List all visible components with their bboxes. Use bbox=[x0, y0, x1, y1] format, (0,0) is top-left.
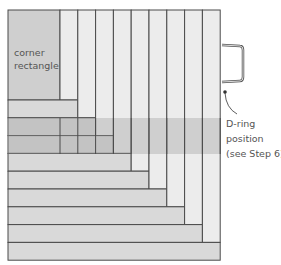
corner-label-line1: corner bbox=[14, 46, 45, 60]
horizontal-strip bbox=[8, 207, 185, 225]
vertical-strip bbox=[78, 10, 96, 118]
horizontal-strip bbox=[8, 100, 78, 118]
corner-label-line2: rectangle bbox=[14, 59, 59, 73]
d-ring-band bbox=[8, 118, 220, 154]
horizontal-strip bbox=[8, 225, 202, 243]
vertical-strip bbox=[185, 10, 203, 225]
horizontal-strip bbox=[8, 171, 149, 189]
d-ring-label-line1: D-ring bbox=[226, 117, 255, 131]
vertical-strip bbox=[149, 10, 167, 189]
d-ring-label-line2: position bbox=[226, 132, 264, 146]
d-ring-icon bbox=[222, 45, 243, 82]
horizontal-strip bbox=[8, 189, 167, 207]
horizontal-strip bbox=[8, 242, 220, 260]
d-ring-label-line3: (see Step 6) bbox=[226, 147, 281, 161]
vertical-strip bbox=[167, 10, 185, 207]
horizontal-strip bbox=[8, 153, 131, 171]
vertical-strip bbox=[96, 10, 114, 136]
vertical-strip bbox=[60, 10, 78, 100]
leader-line bbox=[225, 93, 237, 114]
